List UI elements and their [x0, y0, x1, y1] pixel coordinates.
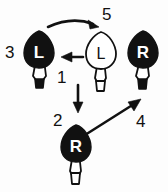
diagram-svg: 5 L 3 1 L 2 — [0, 0, 168, 192]
arrow-curved-top-head — [88, 20, 99, 29]
bulb-bottom[interactable]: R — [61, 125, 91, 184]
label-2: 2 — [53, 111, 62, 130]
bulb-left-letter: L — [34, 43, 44, 62]
arrow-diagonal-up-right — [85, 99, 141, 135]
arrow-diagonal-up-right-shaft — [85, 104, 134, 135]
bulb-center-letter: L — [97, 45, 106, 62]
arrow-vertical-down-head — [73, 102, 83, 113]
label-1: 1 — [57, 68, 66, 87]
label-3: 3 — [5, 43, 14, 62]
bulb-left-tip — [35, 79, 44, 88]
arrow-diagonal-up-right-head — [128, 99, 141, 111]
diagram-canvas: 5 L 3 1 L 2 — [0, 0, 168, 192]
bulb-left[interactable]: L — [24, 31, 54, 88]
label-5: 5 — [102, 5, 111, 24]
bulb-right-letter: R — [137, 43, 149, 62]
bulb-center[interactable]: L — [86, 32, 116, 91]
arrow-vertical-down — [73, 85, 83, 113]
bulb-center-tip — [96, 81, 105, 91]
label-4: 4 — [136, 112, 145, 131]
arrow-curved-top — [48, 20, 99, 29]
bulb-bottom-tip — [71, 173, 80, 184]
bulb-right[interactable]: R — [128, 31, 158, 89]
bulb-bottom-letter: R — [70, 137, 82, 156]
arrow-horizontal-left — [61, 52, 83, 62]
bulb-right-tip — [138, 79, 147, 89]
arrow-curved-top-shaft — [48, 21, 93, 27]
arrow-horizontal-left-head — [61, 52, 72, 62]
